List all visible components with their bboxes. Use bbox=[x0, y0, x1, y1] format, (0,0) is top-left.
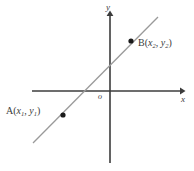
y-axis bbox=[107, 11, 114, 164]
x-axis-label: x bbox=[181, 95, 185, 104]
point-b-marker bbox=[128, 38, 133, 43]
line-through-a-and-b bbox=[33, 17, 158, 143]
origin-label: o bbox=[98, 93, 102, 101]
point-a-label-suffix: ) bbox=[37, 105, 40, 116]
point-a-y-subscript: 1 bbox=[34, 110, 37, 117]
coordinate-plane-figure: y x o A(x1, y1) B(x2, y2) bbox=[0, 0, 194, 171]
point-a-marker bbox=[60, 112, 65, 117]
point-b-label-prefix: B( bbox=[138, 37, 148, 48]
point-a-label-prefix: A( bbox=[6, 105, 17, 116]
coordinate-plane-svg bbox=[0, 0, 194, 171]
x-axis bbox=[32, 88, 186, 95]
point-a-label: A(x1, y1) bbox=[6, 106, 40, 116]
point-a-x-subscript: 1 bbox=[21, 110, 24, 117]
point-b-label-suffix: ) bbox=[168, 37, 171, 48]
point-b-label: B(x2, y2) bbox=[138, 38, 172, 48]
point-b-y-subscript: 2 bbox=[165, 42, 168, 49]
y-axis-label: y bbox=[106, 3, 110, 12]
point-b-x-subscript: 2 bbox=[152, 42, 155, 49]
